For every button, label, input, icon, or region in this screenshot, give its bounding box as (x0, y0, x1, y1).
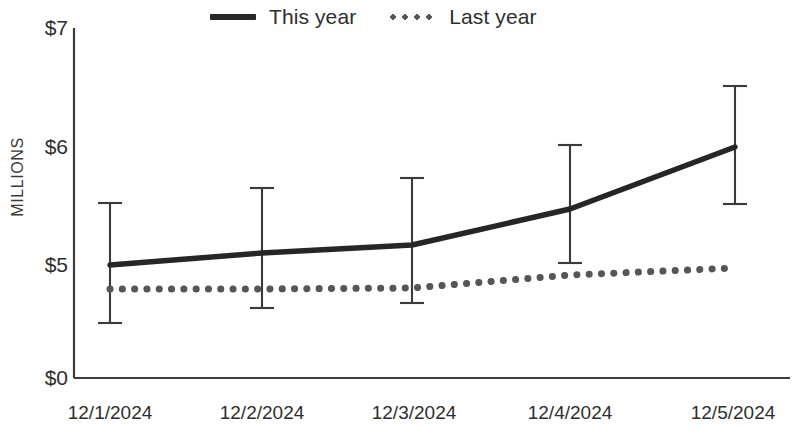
series-this-year (110, 147, 735, 265)
x-tick-5: 12/5/2024 (691, 402, 776, 424)
legend-item-last-year[interactable]: Last year (390, 5, 536, 29)
y-tick-7: $7 (6, 16, 68, 40)
x-tick-3: 12/3/2024 (372, 402, 457, 424)
y-tick-6: $6 (6, 135, 68, 159)
legend-item-this-year[interactable]: This year (210, 5, 356, 29)
y-tick-0: $0 (6, 366, 68, 390)
legend-label-last-year: Last year (449, 5, 536, 29)
legend-label-this-year: This year (269, 5, 356, 29)
y-tick-5: $5 (6, 253, 68, 277)
x-tick-1: 12/1/2024 (68, 402, 153, 424)
x-tick-4: 12/4/2024 (528, 402, 613, 424)
chart-legend: This year Last year (210, 2, 537, 32)
y-axis-tick-labels: $7 $6 $5 $0 (0, 0, 68, 430)
dotted-line-swatch-icon (390, 14, 436, 20)
line-chart: This year Last year MILLIONS $7 $6 $5 $0… (0, 0, 794, 430)
solid-line-swatch-icon (210, 14, 256, 20)
x-tick-2: 12/2/2024 (220, 402, 305, 424)
series-last-year (110, 268, 735, 289)
chart-plot-area (0, 0, 794, 430)
